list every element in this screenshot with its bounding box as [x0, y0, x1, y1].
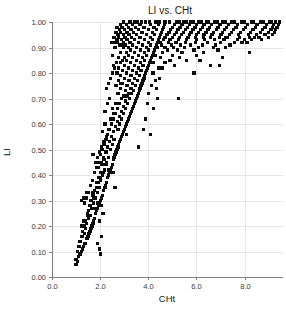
data-point — [135, 59, 138, 62]
data-point — [105, 181, 108, 184]
data-point — [86, 212, 89, 215]
y-tick-label: 0.00 — [31, 273, 46, 282]
data-point — [163, 20, 166, 23]
data-point — [192, 71, 195, 74]
data-point — [125, 133, 128, 136]
data-point — [177, 97, 180, 100]
data-point — [90, 199, 93, 202]
data-point — [127, 46, 130, 49]
data-point — [154, 20, 157, 23]
data-point — [179, 43, 182, 46]
y-tick-label: 0.70 — [31, 95, 46, 104]
data-point — [141, 56, 144, 59]
data-point — [263, 33, 266, 36]
data-point — [104, 150, 107, 153]
data-point — [109, 117, 112, 120]
data-point — [150, 84, 153, 87]
data-point — [143, 51, 146, 54]
data-point — [242, 20, 245, 23]
y-tick-label: 0.20 — [31, 222, 46, 231]
x-axis-label: CHt — [159, 293, 176, 304]
data-point — [265, 23, 268, 26]
data-point — [108, 97, 111, 100]
y-tick-label: 0.60 — [31, 120, 46, 129]
data-point — [137, 41, 140, 44]
data-point — [236, 23, 239, 26]
data-point — [99, 252, 102, 255]
data-point — [128, 20, 131, 23]
data-point — [145, 33, 148, 36]
data-point — [140, 31, 143, 34]
x-tick-label: 4.0 — [143, 282, 153, 291]
data-point — [78, 240, 81, 243]
data-point — [111, 107, 114, 110]
data-point — [142, 26, 145, 29]
data-point — [85, 196, 88, 199]
data-point — [189, 43, 192, 46]
y-tick-label: 0.90 — [31, 44, 46, 53]
data-point — [127, 79, 130, 82]
data-point — [112, 112, 115, 115]
data-point — [83, 224, 86, 227]
data-point — [137, 145, 140, 148]
data-point — [102, 140, 105, 143]
data-point — [180, 51, 183, 54]
data-point — [101, 212, 104, 215]
data-point — [110, 41, 113, 44]
data-point — [98, 150, 101, 153]
data-point — [158, 77, 161, 80]
data-point — [110, 135, 113, 138]
y-axis-label: LI — [1, 148, 12, 156]
data-point — [155, 87, 158, 90]
data-point — [119, 74, 122, 77]
data-point — [124, 99, 127, 102]
data-point — [115, 26, 118, 29]
data-point — [178, 56, 181, 59]
data-point — [112, 117, 115, 120]
data-point — [224, 46, 227, 49]
data-point — [95, 186, 98, 189]
data-point — [116, 107, 119, 110]
data-point — [202, 51, 205, 54]
data-point — [123, 36, 126, 39]
x-tick-label: 6.0 — [191, 282, 201, 291]
data-point — [133, 77, 136, 80]
data-point — [127, 92, 130, 95]
data-point — [80, 199, 83, 202]
data-point — [219, 41, 222, 44]
data-point — [103, 122, 106, 125]
data-point — [198, 59, 201, 62]
data-point — [124, 89, 127, 92]
data-point — [122, 105, 125, 108]
data-point — [139, 61, 142, 64]
x-tick-label: 8.0 — [240, 282, 250, 291]
data-point — [201, 43, 204, 46]
data-point — [131, 82, 134, 85]
data-point — [151, 31, 154, 34]
data-point — [183, 46, 186, 49]
data-point — [140, 20, 143, 23]
x-tick-label: 2.0 — [95, 282, 105, 291]
data-point — [197, 46, 200, 49]
data-point — [154, 79, 157, 82]
data-point — [99, 171, 102, 174]
data-point — [215, 20, 218, 23]
x-tick-label: 0.0 — [47, 282, 57, 291]
data-point — [137, 66, 140, 69]
data-point — [101, 171, 104, 174]
data-point — [91, 153, 94, 156]
data-point — [81, 230, 84, 233]
data-point — [130, 36, 133, 39]
data-point — [156, 97, 159, 100]
data-point — [135, 46, 138, 49]
data-point — [157, 66, 160, 69]
data-point — [177, 20, 180, 23]
data-point — [94, 207, 97, 210]
data-point — [218, 64, 221, 67]
data-point — [121, 69, 124, 72]
data-point — [159, 56, 162, 59]
data-point — [111, 71, 114, 74]
data-point — [138, 36, 141, 39]
data-point — [213, 20, 216, 23]
data-point — [125, 71, 128, 74]
